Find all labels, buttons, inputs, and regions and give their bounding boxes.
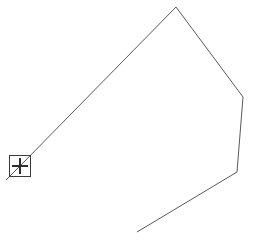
drawing-canvas[interactable] [0,0,255,251]
cursor-tail-line [6,166,20,180]
vector-drawing-surface[interactable] [0,0,255,251]
polyline-shape[interactable] [20,7,243,232]
